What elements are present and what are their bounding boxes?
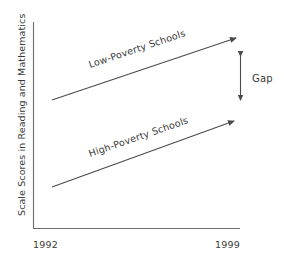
schematic-trend-chart: Scale Scores in Reading and Mathematics …: [0, 0, 284, 263]
gap-annotation-label: Gap: [252, 73, 273, 84]
y-axis-title: Scale Scores in Reading and Mathematics: [16, 14, 27, 216]
chart-canvas: Scale Scores in Reading and Mathematics …: [0, 0, 284, 263]
high-poverty-series-label: High-Poverty Schools: [87, 114, 190, 158]
x-tick-label-start: 1992: [33, 239, 58, 250]
x-tick-label-end: 1999: [215, 239, 240, 250]
low-poverty-series-label: Low-Poverty Schools: [87, 27, 187, 70]
